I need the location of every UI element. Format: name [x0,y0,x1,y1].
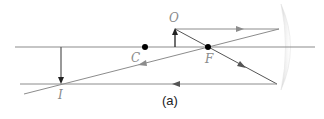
ray-arrowhead-icon [237,61,246,68]
ray-arrowhead-icon [236,26,244,32]
focal-point [205,44,211,50]
ray-focal-incident [175,29,277,84]
center-of-curvature-point [142,44,148,50]
label-image: I [57,88,63,102]
ray-diagram: O C F I (a) [0,0,324,119]
label-object: O [169,11,179,25]
label-center: C [131,51,140,65]
image-arrowhead-icon [58,77,64,84]
ray-arrowhead-icon [172,81,180,87]
figure-caption: (a) [162,93,178,108]
label-focus: F [204,52,214,66]
